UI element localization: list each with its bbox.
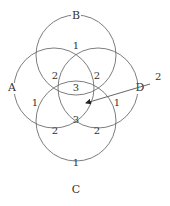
region-value: 2 bbox=[94, 70, 100, 81]
region-value: 2 bbox=[52, 70, 58, 81]
region-value: 1 bbox=[73, 157, 79, 168]
region-value: 2 bbox=[94, 125, 100, 136]
venn-diagram: BADC 1223113221 2 bbox=[0, 0, 170, 206]
callout-label: 2 bbox=[155, 71, 161, 82]
region-value: 1 bbox=[114, 97, 120, 108]
region-value: 3 bbox=[73, 114, 79, 125]
set-label-c: C bbox=[72, 183, 80, 196]
region-value: 1 bbox=[32, 97, 38, 108]
set-label-a: A bbox=[7, 81, 17, 94]
region-value: 3 bbox=[73, 82, 79, 93]
set-label-b: B bbox=[72, 9, 80, 22]
regions-layer: 1223113221 bbox=[32, 40, 120, 168]
region-value: 1 bbox=[73, 40, 79, 51]
region-value: 2 bbox=[52, 125, 58, 136]
